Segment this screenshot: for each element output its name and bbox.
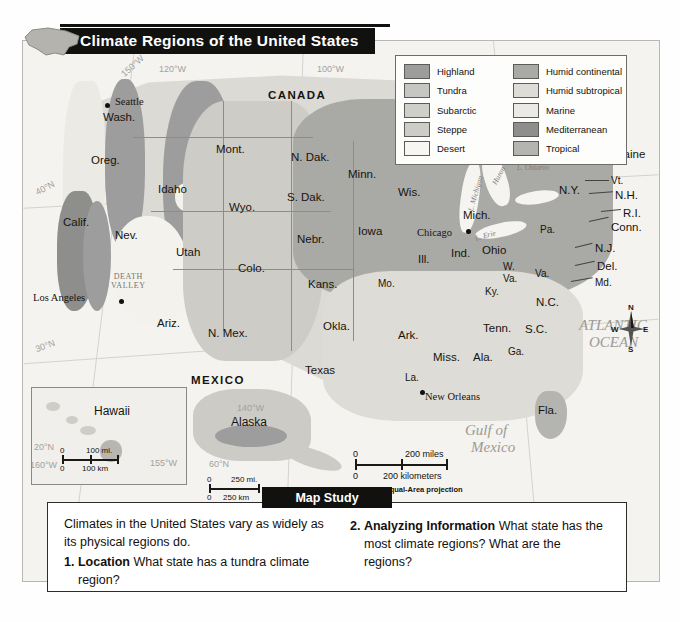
death-valley-line1: DEATH [114,272,143,281]
main-scale-zero-top: 0 [353,449,358,459]
map-study-tab-label: Map Study [295,491,358,505]
state-label-ariz-9: Ariz. [157,317,180,329]
main-scale-tick-left [355,459,357,470]
hawaii-scale-tick-right [117,455,119,464]
state-label-okla-15: Okla. [323,320,350,332]
hawaii-scale-zero-top: 0 [60,446,64,455]
hawaii-scale-tick-mid [90,455,92,464]
city-dot-seattle [105,103,110,108]
state-label-ark-20: Ark. [398,329,418,341]
state-label-sdak-12: S. Dak. [287,191,325,203]
state-label-nebr-13: Nebr. [297,233,325,245]
alaska-inset-label: Alaska [231,415,267,429]
map-study-question-2-term: Analyzing Information [364,519,495,533]
hawaii-scale-bar: 0 100 mi. 0 100 km [60,446,124,474]
main-scale-tick-right [446,459,448,470]
main-scale-km: 200 kilometers [383,471,442,481]
legend-label-desert: Desert [437,143,465,154]
state-label-mo-19: Mo. [378,278,395,289]
hawaii-island-oahu [66,416,78,424]
alaska-inset: Alaska 140°W 60°N 0 250 mi. 0 250 km [185,371,371,501]
map-study-question-1-number: 1. [64,555,74,569]
legend-item-mediterranean: Mediterranean [509,120,622,139]
city-label-new-orleans: New Orleans [425,391,480,403]
legend-column-left: Highland Tundra Subarctic Steppe Desert [400,62,509,158]
state-label-vt-41: Vt. [611,175,623,186]
city-label-chicago: Chicago [417,227,452,238]
legend-label-tropical: Tropical [546,143,579,154]
state-label-va-36: Va. [503,273,517,284]
map-study-question-1: 1. Location What state has a tundra clim… [64,553,324,589]
state-label-nmex-10: N. Mex. [208,327,248,339]
legend-swatch-marine [513,103,539,118]
alaska-scale-tick-left [209,484,211,493]
hawaii-scale-miles: 100 mi. [86,446,112,455]
hawaii-island-kauai [46,402,60,411]
state-label-nj-45: N.J. [595,242,615,254]
us-outline-emblem-icon [22,25,82,59]
legend-label-tundra: Tundra [437,85,467,96]
legend-swatch-desert [404,141,430,156]
legend-item-subarctic: Subarctic [400,101,509,120]
state-label-ga-31: Ga. [508,346,524,357]
country-label-canada: CANADA [268,89,326,101]
compass-needle-icon [611,303,651,355]
hawaii-inset: Hawaii 0 100 mi. 0 100 km 20°N 160°W 155… [31,387,187,485]
city-label-new-orleans-text: New Orleans [425,391,480,402]
main-scale-tick-mid [401,459,403,470]
state-label-wis-22: Wis. [398,186,420,198]
hawaii-scale-tick-left [62,455,64,464]
state-label-mich-26: Mich. [463,209,490,221]
state-label-nev-3: Nev. [115,229,138,241]
state-label-ri-43: R.I. [623,207,641,219]
map-study-intro: Climates in the United States vary as wi… [64,515,324,551]
legend-swatch-steppe [404,122,430,137]
hawaii-inset-label: Hawaii [94,404,130,418]
ocean-label-gulf-line1: Gulf of [465,422,507,438]
city-dot-los-angeles [119,299,124,304]
alaska-scale-miles: 250 mi. [231,475,257,484]
compass-rose: N S W E [611,303,651,355]
state-label-ind-27: Ind. [451,247,470,259]
death-valley-label: DEATH VALLEY [111,273,146,291]
hawaii-scale-zero-bottom: 0 [60,464,64,473]
state-label-mont-5: Mont. [216,143,245,155]
map-study-question-2: 2. Analyzing Information What state has … [350,517,610,571]
state-label-iowa-18: Iowa [358,225,382,237]
state-label-ky-29: Ky. [485,286,499,297]
alaska-grid-label-140w: 140°W [237,403,264,413]
state-label-wyo-6: Wyo. [229,201,255,213]
hawaii-island-maui [80,426,96,435]
legend-swatch-humid-subtropical [513,83,539,98]
state-label-ala-25: Ala. [473,351,493,363]
state-label-nh-42: N.H. [615,189,638,201]
legend-label-steppe: Steppe [437,124,467,135]
hawaii-scale-km: 100 km [82,464,108,473]
legend-label-mediterranean: Mediterranean [546,124,607,135]
state-label-conn-44: Conn. [611,221,642,233]
alaska-scale-line [209,488,259,490]
state-label-kans-14: Kans. [308,278,337,290]
legend-swatch-subarctic [404,103,430,118]
state-label-del-46: Del. [597,260,617,272]
legend-swatch-mediterranean [513,122,539,137]
state-label-utah-7: Utah [176,246,200,258]
state-label-la-21: La. [405,372,419,383]
legend-label-humid-subtropical: Humid subtropical [546,85,622,96]
legend-item-steppe: Steppe [400,120,509,139]
state-label-miss-24: Miss. [433,351,460,363]
legend-label-humid-continental: Humid continental [546,66,622,77]
alaska-scale-km: 250 km [223,493,249,502]
alaska-panhandle [280,440,345,476]
state-label-minn-17: Minn. [348,168,376,180]
state-label-colo-8: Colo. [238,262,265,274]
death-valley-line2: VALLEY [111,281,146,290]
state-label-ny-39: N.Y. [559,184,580,196]
alaska-scale-zero-bottom: 0 [207,493,211,502]
legend-label-highland: Highland [437,66,475,77]
legend-item-marine: Marine [509,101,622,120]
city-dot-chicago [466,229,471,234]
grid-label-100w: 100°W [317,64,344,74]
hawaii-grid-label-160w: 160°W [30,460,57,470]
state-label-wash-0: Wash. [103,111,135,123]
